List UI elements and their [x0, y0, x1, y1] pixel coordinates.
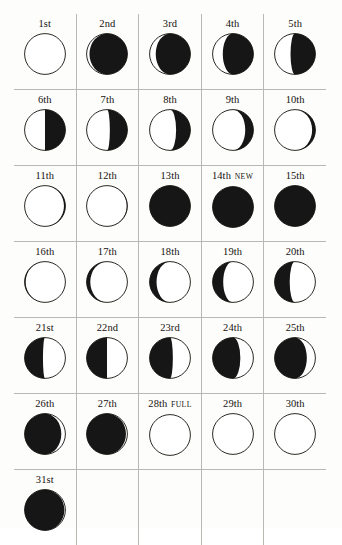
- day-cell[interactable]: 18th: [139, 242, 202, 318]
- waxing-gibbous-glyph: [84, 411, 130, 457]
- day-cell[interactable]: 16th: [14, 242, 76, 318]
- moon-phase-icon: [210, 259, 256, 305]
- day-cell[interactable]: 10th: [264, 90, 326, 166]
- moon-shadow: [212, 338, 240, 379]
- day-label: 10th: [264, 90, 326, 106]
- day-cell[interactable]: 3rd: [139, 14, 202, 90]
- moon-phase-icon: [147, 31, 193, 77]
- day-label: 28th FULL: [139, 394, 201, 411]
- full-moon-glyph: [272, 411, 318, 457]
- day-cell[interactable]: 29th: [201, 394, 264, 470]
- day-label: 14th NEW: [202, 166, 264, 183]
- day-cell[interactable]: 7th: [76, 90, 139, 166]
- moon-phase-icon: [147, 183, 193, 229]
- day-cell[interactable]: 14th NEW: [201, 166, 264, 242]
- day-label: 13th: [139, 166, 201, 182]
- day-cell[interactable]: 1st: [14, 14, 76, 90]
- day-label: 15th: [264, 166, 326, 182]
- day-cell[interactable]: 6th: [14, 90, 76, 166]
- moon-phase-icon: [147, 107, 193, 153]
- moon-phase-icon: [84, 259, 130, 305]
- day-cell[interactable]: 11th: [14, 166, 76, 242]
- phase-tag: FULL: [171, 400, 192, 409]
- day-cell[interactable]: 28th FULL: [139, 394, 202, 470]
- calendar-week-row: 11th12th13th14th NEW15th: [14, 166, 326, 242]
- day-cell[interactable]: 20th: [264, 242, 326, 318]
- waxing-crescent-glyph: [272, 259, 318, 305]
- moon-phase-icon: [272, 31, 318, 77]
- day-label: 1st: [14, 14, 76, 30]
- day-cell[interactable]: 5th: [264, 14, 326, 90]
- day-cell[interactable]: 31st: [14, 470, 76, 545]
- waning-gibbous-glyph: [272, 31, 318, 77]
- day-cell[interactable]: 13th: [139, 166, 202, 242]
- moon-phase-icon: [22, 107, 68, 153]
- day-label: 16th: [14, 242, 76, 258]
- moon-shadow: [156, 34, 191, 75]
- waning-crescent-glyph: [22, 183, 68, 229]
- day-label: 7th: [77, 90, 139, 106]
- moon-phase-icon: [272, 411, 318, 457]
- day-cell[interactable]: 4th: [201, 14, 264, 90]
- moon-phase-icon: [147, 335, 193, 381]
- day-cell[interactable]: 30th: [264, 394, 326, 470]
- moon-phase-icon: [22, 259, 68, 305]
- moon-phase-icon: [84, 335, 130, 381]
- day-cell[interactable]: 22nd: [76, 318, 139, 394]
- day-label: 6th: [14, 90, 76, 106]
- calendar-week-row: 16th17th18th19th20th: [14, 242, 326, 318]
- day-label: 24th: [202, 318, 264, 334]
- day-label: 26th: [14, 394, 76, 410]
- day-cell[interactable]: 27th: [76, 394, 139, 470]
- moon-phase-icon: [22, 31, 68, 77]
- phase-tag: NEW: [235, 172, 254, 181]
- day-label: 21st: [14, 318, 76, 334]
- waning-crescent-glyph: [210, 107, 256, 153]
- day-cell[interactable]: 15th: [264, 166, 326, 242]
- day-cell[interactable]: 21st: [14, 318, 76, 394]
- waning-crescent-glyph: [147, 107, 193, 153]
- moon-phase-icon: [272, 183, 318, 229]
- moon-phase-icon: [84, 107, 130, 153]
- moon-phase-icon: [22, 335, 68, 381]
- day-cell[interactable]: 8th: [139, 90, 202, 166]
- day-cell[interactable]: 9th: [201, 90, 264, 166]
- waxing-gibbous-glyph: [22, 411, 68, 457]
- day-cell[interactable]: 24th: [201, 318, 264, 394]
- day-label: 31st: [14, 470, 76, 486]
- day-cell[interactable]: 23rd: [139, 318, 202, 394]
- day-label: 2nd: [77, 14, 139, 30]
- day-cell[interactable]: 25th: [264, 318, 326, 394]
- moon-shadow: [107, 110, 127, 151]
- day-cell[interactable]: 2nd: [76, 14, 139, 90]
- day-cell[interactable]: 26th: [14, 394, 76, 470]
- day-label: 17th: [77, 242, 139, 258]
- day-label: 3rd: [139, 14, 201, 30]
- day-cell[interactable]: 19th: [201, 242, 264, 318]
- empty-cell: [264, 470, 326, 545]
- waxing-crescent-glyph: [210, 259, 256, 305]
- moon-phase-icon: [22, 183, 68, 229]
- waxing-gibbous-glyph: [272, 335, 318, 381]
- day-cell[interactable]: 17th: [76, 242, 139, 318]
- first-quarter-glyph: [84, 335, 130, 381]
- empty-cell: [139, 470, 202, 545]
- moon-phase-icon: [22, 411, 68, 457]
- day-label: 5th: [264, 14, 326, 30]
- moon-phase-icon: [272, 259, 318, 305]
- moon-phase-icon: [272, 107, 318, 153]
- full-moon-glyph: [22, 31, 68, 77]
- day-cell[interactable]: 12th: [76, 166, 139, 242]
- waning-gibbous-glyph: [210, 31, 256, 77]
- moon-phase-icon: [210, 107, 256, 153]
- moon-shadow: [222, 34, 253, 75]
- waning-crescent-glyph: [84, 107, 130, 153]
- day-label: 19th: [202, 242, 264, 258]
- calendar-week-row: 1st2nd3rd4th5th: [14, 14, 326, 90]
- calendar-week-row: 21st22nd23rd24th25th: [14, 318, 326, 394]
- waning-gibbous-glyph: [84, 31, 130, 77]
- moon-phase-icon: [84, 183, 130, 229]
- moon-shadow: [45, 110, 65, 151]
- day-label: 11th: [14, 166, 76, 182]
- moon-shadow: [87, 338, 107, 379]
